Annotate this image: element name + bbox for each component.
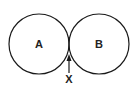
- label-x: X: [65, 73, 73, 85]
- label-a: A: [35, 38, 43, 50]
- tangent-circles-diagram: A B X: [0, 0, 139, 89]
- label-b: B: [95, 38, 103, 50]
